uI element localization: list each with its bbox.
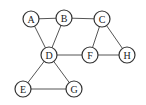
node-label: G — [70, 84, 77, 95]
node-f: F — [82, 47, 98, 63]
node-label: E — [20, 84, 26, 95]
node-label: B — [61, 13, 68, 24]
node-c: C — [94, 11, 110, 27]
node-d: D — [41, 47, 57, 63]
node-label: A — [27, 14, 35, 25]
edges — [23, 18, 127, 89]
node-h: H — [119, 47, 135, 63]
node-label: H — [123, 50, 130, 61]
node-label: C — [99, 14, 106, 25]
node-b: B — [56, 10, 72, 26]
node-label: D — [45, 50, 52, 61]
node-g: G — [66, 81, 82, 97]
nodes: ABCDFHEG — [15, 10, 135, 97]
node-e: E — [15, 81, 31, 97]
node-a: A — [23, 11, 39, 27]
node-label: F — [87, 50, 93, 61]
graph-diagram: ABCDFHEG — [0, 0, 146, 105]
